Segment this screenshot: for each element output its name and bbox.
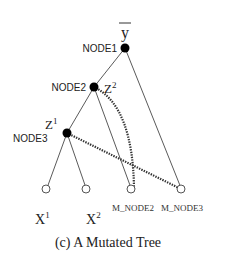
leaf-x2-label: X2 [86,210,101,227]
edge-node2-node3 [67,87,94,133]
leaf-mnode3-label: M_NODE3 [161,203,203,213]
leaf-x1 [42,185,50,193]
root-symbol: y [121,24,129,42]
node3-var: Z1 [45,116,57,132]
leaf-mnode3 [177,185,185,193]
node1-dot [121,44,130,53]
leaf-mnode2 [127,185,135,193]
leaf-x2 [82,185,90,193]
mutation-edges [69,88,181,189]
node2-label: NODE2 [52,82,87,93]
node2-var: Z2 [104,80,116,96]
leaf-mnode2-label: M_NODE2 [112,203,154,213]
edge-node1-mnode3 [125,48,181,188]
node2-dot [90,83,99,92]
mutation-edge-node3-mnode3 [69,134,181,189]
edge-node3-x1 [47,133,67,188]
mutated-tree-diagram: y NODE1 NODE2 NODE3 Z2 Z1 X1 X2 M_NODE2 … [0,0,230,257]
mutation-edge-node2-mnode2 [96,88,134,189]
node3-dot [63,129,72,138]
figure-caption: (c) A Mutated Tree [55,235,161,251]
node1-label: NODE1 [83,43,118,54]
node3-label: NODE3 [13,133,48,144]
tree-edges [47,48,181,188]
leaf-x1-label: X1 [35,210,50,227]
